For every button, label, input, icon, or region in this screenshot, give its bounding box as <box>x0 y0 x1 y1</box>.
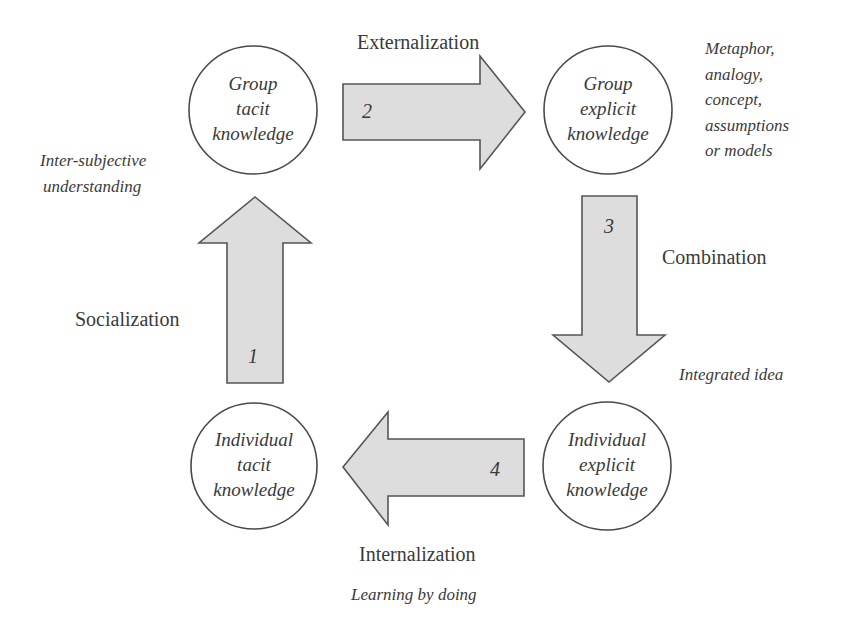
label-externalization: Externalization <box>357 32 479 52</box>
node-line: knowledge <box>189 477 319 502</box>
node-group-tacit: Group tacit knowledge <box>188 71 318 146</box>
note-line: Metaphor, <box>705 36 789 62</box>
node-individual-tacit: Individual tacit knowledge <box>189 427 319 502</box>
note-combination: Integrated idea <box>679 366 783 383</box>
node-individual-explicit: Individual explicit knowledge <box>542 427 672 502</box>
node-line: Individual <box>189 427 319 452</box>
note-line: assumptions <box>705 113 789 139</box>
node-line: tacit <box>189 452 319 477</box>
node-group-explicit: Group explicit knowledge <box>543 71 673 146</box>
label-combination: Combination <box>662 247 766 267</box>
node-line: knowledge <box>188 121 318 146</box>
node-line: explicit <box>542 452 672 477</box>
label-socialization: Socialization <box>75 309 179 329</box>
node-line: Individual <box>542 427 672 452</box>
note-line: analogy, <box>705 62 789 88</box>
node-line: Group <box>188 71 318 96</box>
knowledge-conversion-diagram: Group tacit knowledge Group explicit kno… <box>0 0 859 636</box>
node-line: tacit <box>188 96 318 121</box>
note-line: understanding <box>40 174 146 200</box>
note-line: Inter-subjective <box>40 148 146 174</box>
note-line: or models <box>705 138 789 164</box>
note-internalization: Learning by doing <box>351 586 477 603</box>
node-line: Group <box>543 71 673 96</box>
arrow-4-number: 4 <box>490 459 500 479</box>
node-line: knowledge <box>542 477 672 502</box>
note-socialization: Inter-subjective understanding <box>40 148 146 199</box>
arrow-2-number: 2 <box>362 101 372 121</box>
note-line: concept, <box>705 87 789 113</box>
label-internalization: Internalization <box>359 544 476 564</box>
node-line: explicit <box>543 96 673 121</box>
arrow-3-number: 3 <box>604 216 614 236</box>
note-externalization: Metaphor, analogy, concept, assumptions … <box>705 36 789 164</box>
arrow-1-number: 1 <box>248 346 258 366</box>
node-line: knowledge <box>543 121 673 146</box>
